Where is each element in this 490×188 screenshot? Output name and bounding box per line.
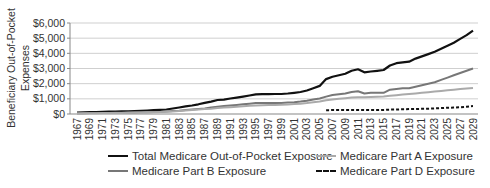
svg-text:2019: 2019 <box>404 118 415 141</box>
svg-text:$5,000: $5,000 <box>33 32 65 44</box>
series-line <box>326 106 473 110</box>
series-line <box>77 31 473 113</box>
svg-text:1981: 1981 <box>161 118 172 141</box>
svg-text:1979: 1979 <box>148 118 159 141</box>
legend-item-total: Total Medicare Out-of-Pocket Exposure <box>108 150 333 162</box>
svg-text:2003: 2003 <box>301 118 312 141</box>
svg-text:1967: 1967 <box>72 118 83 141</box>
y-axis-title: Beneficiary Out-of-Pocket <box>5 8 17 128</box>
svg-text:2017: 2017 <box>391 118 402 141</box>
svg-text:1987: 1987 <box>199 118 210 141</box>
y-axis-title-line2: Expenses <box>19 45 31 91</box>
svg-text:1971: 1971 <box>97 118 108 141</box>
svg-text:2013: 2013 <box>365 118 376 141</box>
svg-text:2021: 2021 <box>416 118 427 141</box>
svg-text:1989: 1989 <box>212 118 223 141</box>
legend-item-part-b: Medicare Part B Exposure <box>108 165 266 177</box>
legend-swatch-total <box>108 155 128 157</box>
svg-text:1985: 1985 <box>186 118 197 141</box>
legend-swatch-part-b <box>108 170 128 172</box>
svg-text:$1,000: $1,000 <box>33 92 65 104</box>
svg-text:2011: 2011 <box>353 118 364 140</box>
svg-text:1969: 1969 <box>84 118 95 141</box>
svg-text:1975: 1975 <box>123 118 134 141</box>
y-axis-ticks: $0$1,000$2,000$3,000$4,000$5,000$6,000 <box>33 17 70 120</box>
svg-text:1995: 1995 <box>250 118 261 141</box>
svg-text:2009: 2009 <box>340 118 351 141</box>
svg-text:1977: 1977 <box>135 118 146 141</box>
svg-text:1983: 1983 <box>174 118 185 141</box>
svg-text:2005: 2005 <box>314 118 325 141</box>
svg-text:2029: 2029 <box>468 118 479 141</box>
svg-text:$4,000: $4,000 <box>33 47 65 59</box>
legend-label: Medicare Part B Exposure <box>132 165 266 177</box>
svg-text:2007: 2007 <box>327 118 338 141</box>
legend-item-part-d: Medicare Part D Exposure <box>316 165 475 177</box>
svg-text:$3,000: $3,000 <box>33 62 65 74</box>
series-line <box>77 69 473 114</box>
legend-label: Medicare Part D Exposure <box>340 165 475 177</box>
svg-text:$0: $0 <box>53 108 65 120</box>
svg-text:1997: 1997 <box>263 118 274 141</box>
svg-text:2015: 2015 <box>378 118 389 141</box>
gridlines <box>70 23 478 114</box>
data-lines <box>77 31 473 114</box>
legend-item-part-a: Medicare Part A Exposure <box>316 150 473 162</box>
svg-text:2025: 2025 <box>442 118 453 141</box>
svg-text:1973: 1973 <box>110 118 121 141</box>
svg-text:1993: 1993 <box>238 118 249 141</box>
svg-text:$2,000: $2,000 <box>33 77 65 89</box>
svg-text:2027: 2027 <box>455 118 466 141</box>
svg-text:1991: 1991 <box>225 118 236 141</box>
svg-text:2023: 2023 <box>429 118 440 141</box>
svg-text:1999: 1999 <box>276 118 287 141</box>
x-axis-ticks: 1967196919711973197519771979198119831985… <box>72 118 479 141</box>
legend-label: Medicare Part A Exposure <box>340 150 473 162</box>
legend-swatch-part-a <box>316 155 336 157</box>
legend-swatch-part-d <box>316 170 336 172</box>
svg-text:$6,000: $6,000 <box>33 17 65 29</box>
legend-label: Total Medicare Out-of-Pocket Exposure <box>132 150 333 162</box>
svg-text:2001: 2001 <box>289 118 300 141</box>
